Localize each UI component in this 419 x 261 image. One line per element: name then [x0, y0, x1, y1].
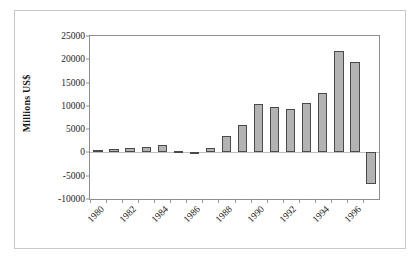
x-axis-tick-mark: [363, 199, 364, 203]
x-axis-tick-mark: [202, 199, 203, 203]
x-axis-tick-mark: [138, 199, 139, 203]
x-axis-tick-mark: [170, 199, 171, 203]
x-axis-tick-mark: [106, 199, 107, 203]
y-axis-tick-label: 25000: [61, 31, 85, 41]
bar-1984: [158, 145, 167, 153]
bar-1991: [270, 107, 279, 153]
y-axis-tick-mark: [86, 175, 90, 176]
y-axis-tick-label: -5000: [63, 171, 85, 181]
x-axis-tick-mark: [218, 199, 219, 203]
y-axis-tick-label: -10000: [58, 194, 85, 204]
x-axis-tick-mark: [251, 199, 252, 203]
y-axis-tick-label: 20000: [61, 54, 85, 64]
chart-figure: Millions US$ 2500020000150001000050000-5…: [0, 0, 419, 261]
y-axis-tick-mark: [86, 36, 90, 37]
zero-baseline: [90, 152, 379, 153]
bar-1981: [109, 149, 118, 152]
bar-1983: [142, 147, 151, 153]
x-axis-tick-mark: [283, 199, 284, 203]
y-axis-tick-label: 15000: [61, 78, 85, 88]
y-axis-tick-mark: [86, 59, 90, 60]
bar-1985: [174, 151, 183, 153]
bar-1995: [334, 51, 343, 153]
bar-1994: [318, 93, 327, 153]
plot-area: 2500020000150001000050000-5000-100001980…: [89, 35, 380, 200]
y-axis-tick-label: 0: [80, 147, 85, 157]
y-axis-tick-label: 10000: [61, 101, 85, 111]
x-axis-tick-mark: [267, 199, 268, 203]
bar-1986: [190, 152, 199, 154]
bar-1997: [366, 152, 375, 184]
y-axis-title: Millions US$: [21, 59, 32, 149]
y-axis-tick-mark: [86, 152, 90, 153]
y-axis-tick-mark: [86, 129, 90, 130]
x-axis-tick-mark: [315, 199, 316, 203]
y-axis-tick-mark: [86, 105, 90, 106]
x-axis-tick-mark: [122, 199, 123, 203]
x-axis-tick-mark: [299, 199, 300, 203]
x-axis-tick-mark: [347, 199, 348, 203]
x-axis-tick-mark: [331, 199, 332, 203]
bar-1992: [286, 109, 295, 152]
bar-1988: [222, 136, 231, 153]
bar-1989: [238, 125, 247, 152]
x-axis-tick-mark: [90, 199, 91, 203]
bar-1982: [125, 148, 134, 153]
bar-1996: [350, 62, 359, 152]
x-axis-tick-mark: [235, 199, 236, 203]
bar-1980: [93, 150, 102, 152]
y-axis-tick-mark: [86, 82, 90, 83]
y-axis-tick-label: 5000: [66, 124, 85, 134]
x-axis-tick-mark: [154, 199, 155, 203]
bar-1990: [254, 104, 263, 153]
plot-inner: 2500020000150001000050000-5000-100001980…: [90, 36, 379, 199]
bar-1993: [302, 103, 311, 152]
x-axis-tick-mark: [186, 199, 187, 203]
bar-1987: [206, 148, 215, 152]
